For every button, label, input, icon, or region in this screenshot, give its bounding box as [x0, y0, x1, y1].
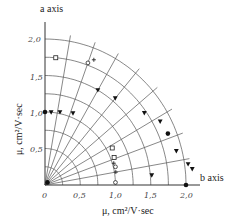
y-tick-2-0: 2,0: [27, 35, 41, 44]
triangle-down-filled-marker: [158, 120, 163, 124]
circle-filled-marker: [166, 131, 171, 136]
x-tick-2-0: 2,0: [179, 191, 193, 200]
plus-marker: [92, 58, 96, 62]
circle-open-marker: [114, 181, 118, 185]
y-tick-0-5: 0,5: [30, 145, 43, 154]
x-tick-0: 0: [42, 191, 47, 200]
a-axis-label: a axis: [40, 3, 63, 14]
circle-filled-marker: [184, 183, 189, 188]
square-open-marker: [112, 156, 116, 160]
circle-open-marker: [86, 61, 90, 65]
x-axis-title: μ, cm²/V·sec: [102, 205, 154, 216]
x-tick-1-0: 1,0: [109, 191, 122, 200]
b-axis-label: b axis: [200, 172, 224, 183]
triangle-down-filled-marker: [174, 149, 179, 153]
square-open-marker: [110, 146, 114, 150]
circle-filled-marker: [45, 180, 50, 185]
chart-grid: [45, 22, 200, 185]
y-axis-title: μ, cm²/V·sec: [13, 103, 24, 155]
triangle-down-filled-marker: [71, 111, 76, 115]
y-tick-1-0: 1,0: [30, 109, 43, 118]
circle-filled-marker: [43, 110, 48, 115]
x-tick-1-5: 1,5: [144, 191, 157, 200]
x-tick-0-5: 0,5: [73, 191, 86, 200]
y-tick-1-5: 1,5: [30, 73, 43, 82]
polar-chart: a axis b axis 0 0,5 1,0 1,5 2,0 0,5 1,0 …: [0, 0, 236, 224]
circle-open-marker: [114, 165, 118, 169]
triangle-down-filled-marker: [186, 162, 191, 166]
triangle-down-filled-marker: [190, 167, 195, 171]
square-open-marker: [54, 56, 58, 60]
triangle-down-filled-marker: [95, 88, 100, 92]
triangle-down-filled-marker: [142, 111, 147, 115]
